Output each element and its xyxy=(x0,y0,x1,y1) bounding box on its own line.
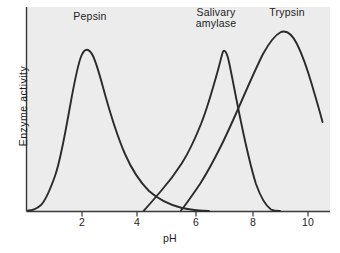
x-tick-label-10: 10 xyxy=(295,216,321,228)
x-tick-label-4: 4 xyxy=(124,216,150,228)
series-label-salivary-amylase-line2: amylase xyxy=(182,18,250,30)
x-tick-label-2: 2 xyxy=(69,216,95,228)
y-axis-label: Enzyme activity xyxy=(17,31,29,181)
curve-pepsin xyxy=(28,50,209,211)
x-axis-label: pH xyxy=(0,232,340,244)
series-label-trypsin: Trypsin xyxy=(256,7,318,19)
series-label-pepsin: Pepsin xyxy=(58,11,122,23)
curve-salivary-amylase xyxy=(144,51,280,211)
x-tick-label-8: 8 xyxy=(240,216,266,228)
enzyme-activity-chart: 2 4 6 8 10 pH Enzyme activity Pepsin Sal… xyxy=(0,0,340,253)
x-tick-label-6: 6 xyxy=(183,216,209,228)
chart-canvas xyxy=(0,0,340,253)
